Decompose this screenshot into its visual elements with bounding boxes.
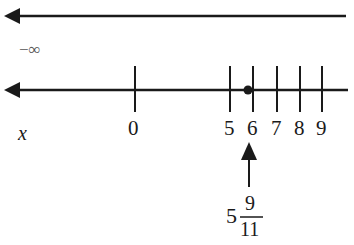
tick-label-5: 5 bbox=[224, 116, 235, 141]
tick-label-9: 9 bbox=[316, 116, 327, 141]
tick-label-0: 0 bbox=[128, 116, 139, 141]
negative-infinity-ray bbox=[4, 8, 346, 24]
pointer-arrow bbox=[241, 142, 257, 187]
mixed-number-whole: 5 bbox=[226, 203, 237, 229]
variable-x-label: x bbox=[18, 122, 27, 145]
tick-label-6: 6 bbox=[247, 116, 258, 141]
mixed-number-numerator: 9 bbox=[245, 192, 255, 215]
left-arrowhead-icon bbox=[4, 82, 20, 98]
point-dot bbox=[244, 86, 253, 95]
left-arrowhead-icon bbox=[4, 8, 20, 24]
tick-label-7: 7 bbox=[271, 116, 282, 141]
tick-label-8: 8 bbox=[294, 116, 305, 141]
negative-infinity-label: −∞ bbox=[19, 40, 41, 60]
up-arrowhead-icon bbox=[241, 142, 257, 160]
mixed-number-denominator: 11 bbox=[240, 218, 259, 241]
number-line bbox=[4, 66, 348, 112]
